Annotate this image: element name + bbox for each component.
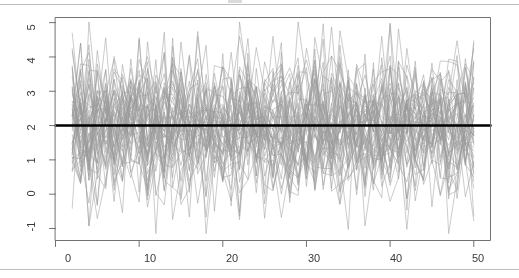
line-chart-canvas <box>0 0 519 278</box>
y-tick-label: 0 <box>26 185 37 203</box>
x-tick-label: 0 <box>56 253 80 264</box>
page-rule-bottom <box>0 269 519 270</box>
x-tick-label: 30 <box>302 253 326 264</box>
y-tick-label: -1 <box>26 218 37 236</box>
y-tick-label: 4 <box>26 52 37 70</box>
x-tick-label: 40 <box>384 253 408 264</box>
y-tick-label: 3 <box>26 85 37 103</box>
x-tick-label: 10 <box>138 253 162 264</box>
y-tick-label: 5 <box>26 19 37 37</box>
y-tick-label: 2 <box>26 119 37 137</box>
figure-root: 5 4 3 2 1 0 -1 0 10 20 30 40 50 <box>0 0 519 278</box>
y-tick-label: 1 <box>26 152 37 170</box>
x-tick-label: 20 <box>220 253 244 264</box>
x-tick-label: 50 <box>466 253 490 264</box>
